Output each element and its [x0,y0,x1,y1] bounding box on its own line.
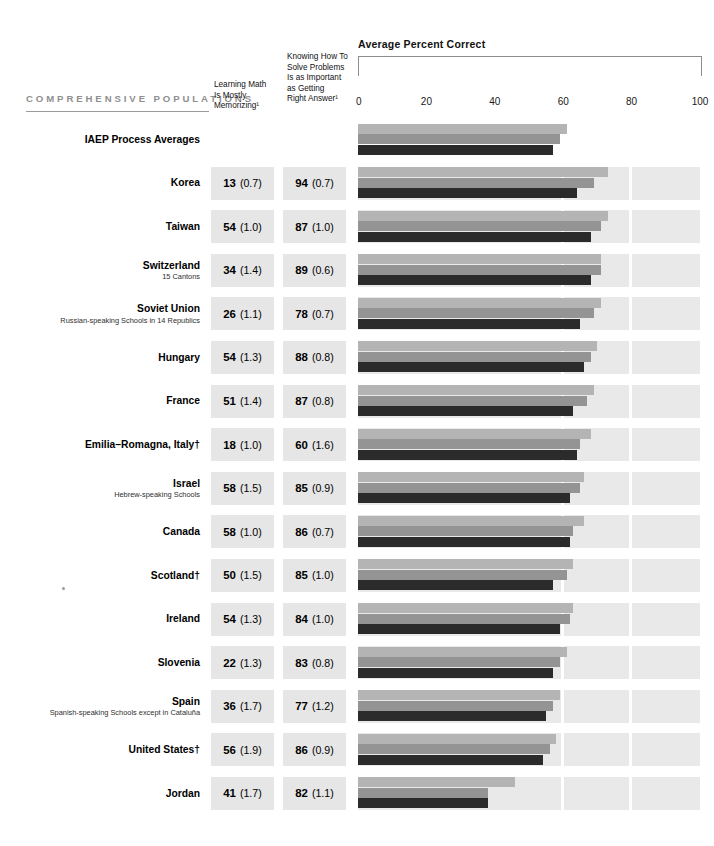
medium-gray-bar [358,352,591,362]
light-gray-bar [358,211,608,221]
important-value: 78 [295,308,308,320]
memorizing-standard-error: (1.5) [240,569,262,581]
light-gray-bar [358,167,608,177]
x-tick-40: 40 [489,96,500,107]
row-plot-area [358,772,700,816]
section-rule-divider [26,111,209,112]
bar-group [358,167,700,199]
light-gray-bar [358,298,601,308]
table-row: Soviet UnionRussian-speaking Schools in … [0,292,714,336]
table-row: Switzerland15 Cantons34(1.4)89(0.6) [0,249,714,293]
important-cell: 86(0.7) [283,515,346,548]
memorizing-cell: 41(1.7) [211,777,274,810]
light-gray-bar [358,559,573,569]
important-cell: 83(0.8) [283,646,346,679]
important-cell: 84(1.0) [283,603,346,636]
bar-group [358,385,700,417]
medium-gray-bar [358,788,488,798]
memorizing-cell: 54(1.3) [211,603,274,636]
dark-bar [358,319,580,329]
important-cell: 89(0.6) [283,254,346,287]
table-row: Jordan41(1.7)82(1.1) [0,772,714,816]
important-value: 86 [295,744,308,756]
important-cell: 88(0.8) [283,341,346,374]
important-cell: 94(0.7) [283,167,346,200]
light-gray-bar [358,124,567,134]
country-name: Jordan [166,788,200,800]
row-label-cell: France [0,380,206,424]
row-plot-area [358,162,700,206]
row-plot-area [358,292,700,336]
row-label-cell: SpainSpanish-speaking Schools except in … [0,685,206,729]
important-value: 60 [295,439,308,451]
important-cell: 77(1.2) [283,690,346,723]
memorizing-standard-error: (1.1) [240,308,262,320]
table-row: Scotland†50(1.5)85(1.0) [0,554,714,598]
dark-bar [358,362,584,372]
table-row: Korea13(0.7)94(0.7) [0,162,714,206]
important-standard-error: (0.9) [312,482,334,494]
memorizing-standard-error: (1.3) [240,657,262,669]
important-standard-error: (0.8) [312,395,334,407]
bar-group [358,777,700,809]
memorizing-cell: 34(1.4) [211,254,274,287]
medium-gray-bar [358,614,570,624]
memorizing-value: 54 [223,613,236,625]
medium-gray-bar [358,439,580,449]
memorizing-cell: 56(1.9) [211,733,274,766]
light-gray-bar [358,254,601,264]
memorizing-cell: 50(1.5) [211,559,274,592]
row-label-cell: Ireland [0,598,206,642]
important-value: 86 [295,526,308,538]
table-row: France51(1.4)87(0.8) [0,380,714,424]
table-row: Ireland54(1.3)84(1.0) [0,598,714,642]
row-plot-area [358,554,700,598]
memorizing-value: 41 [223,787,236,799]
important-cell: 87(1.0) [283,210,346,243]
memorizing-cell: 54(1.0) [211,210,274,243]
memorizing-standard-error: (1.4) [240,395,262,407]
table-row: Taiwan54(1.0)87(1.0) [0,205,714,249]
row-label-cell: Soviet UnionRussian-speaking Schools in … [0,292,206,336]
memorizing-cell: 36(1.7) [211,690,274,723]
bar-group [358,211,700,243]
important-value: 85 [295,482,308,494]
bar-group [358,341,700,373]
dark-bar [358,450,577,460]
row-label-cell: Slovenia [0,641,206,685]
memorizing-value: 34 [223,264,236,276]
medium-gray-bar [358,657,560,667]
light-gray-bar [358,734,556,744]
table-row: SpainSpanish-speaking Schools except in … [0,685,714,729]
dark-bar [358,493,570,503]
bar-group [358,254,700,286]
axis-bracket [358,56,702,76]
country-name: Emilia–Romagna, Italy† [85,439,200,451]
important-cell: 87(0.8) [283,385,346,418]
country-name: Hungary [158,352,200,364]
important-cell: 86(0.9) [283,733,346,766]
row-label-cell: United States† [0,728,206,772]
important-standard-error: (0.8) [312,351,334,363]
memorizing-value: 50 [223,569,236,581]
memorizing-cell: 58(1.0) [211,515,274,548]
chart-rows: IAEP Process AveragesKorea13(0.7)94(0.7)… [0,118,714,816]
dark-bar [358,406,573,416]
country-name: Spain [172,696,200,708]
dark-bar [358,755,543,765]
important-value: 85 [295,569,308,581]
country-subtitle: 15 Cantons [162,272,200,281]
memorizing-standard-error: (1.5) [240,482,262,494]
row-plot-area [358,336,700,380]
memorizing-standard-error: (1.4) [240,264,262,276]
important-value: 77 [295,700,308,712]
table-row: IsraelHebrew-speaking Schools58(1.5)85(0… [0,467,714,511]
important-value: 87 [295,221,308,233]
memorizing-standard-error: (1.7) [240,787,262,799]
important-value: 82 [295,787,308,799]
medium-gray-bar [358,308,594,318]
country-subtitle: Spanish-speaking Schools except in Catal… [50,708,200,717]
row-plot-area [358,380,700,424]
memorizing-value: 54 [223,221,236,233]
country-name: Soviet Union [137,303,200,315]
